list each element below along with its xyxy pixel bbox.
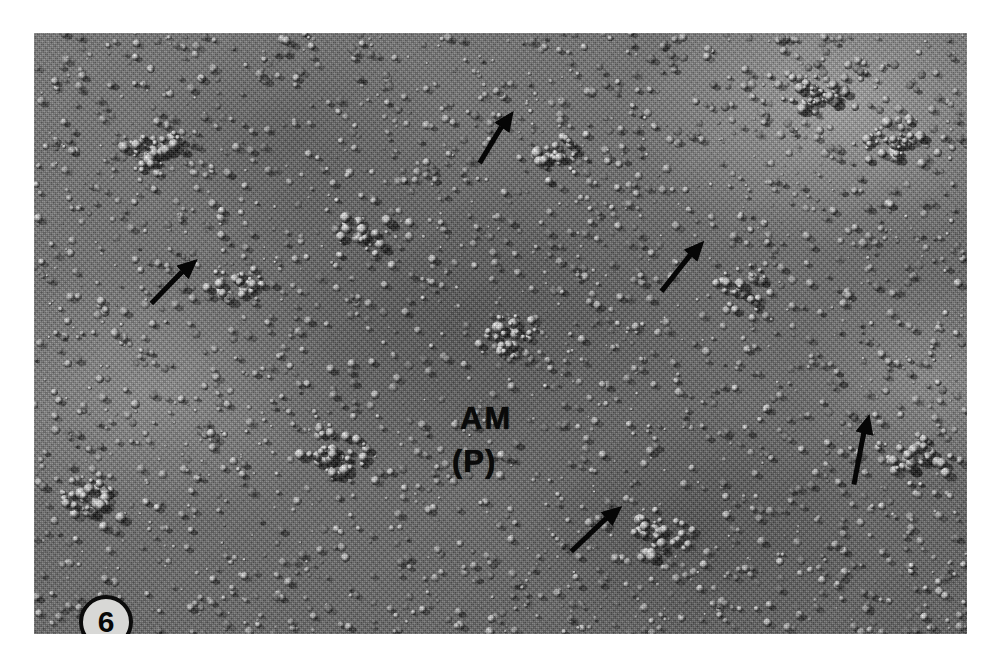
intramembrane-particle-field	[34, 33, 967, 634]
arrow-right-lower-icon	[840, 407, 882, 487]
arrow-bottom-center-icon	[562, 495, 633, 560]
arrow-upper-left-icon	[142, 248, 209, 311]
micrograph-grain-coarse	[34, 33, 967, 634]
micrograph-vignette	[34, 33, 967, 634]
micrograph-tone-layer	[34, 33, 967, 634]
figure-number-badge: 6	[79, 595, 133, 634]
micrograph-image: AM (P) 6	[34, 33, 967, 634]
figure-root: AM (P) 6	[0, 0, 997, 662]
fracture-face-label-p: (P)	[452, 446, 496, 477]
membrane-label-am: AM	[460, 403, 512, 434]
micrograph-grain-fine	[34, 33, 967, 634]
arrow-middle-right-icon	[651, 230, 716, 298]
arrow-top-center-icon	[468, 101, 526, 169]
